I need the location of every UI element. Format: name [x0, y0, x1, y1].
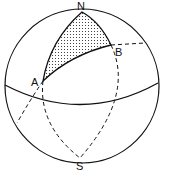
- label-south: S: [76, 160, 83, 170]
- great-circle-ab-lower: [17, 81, 43, 123]
- spherical-triangle-nab: [43, 12, 111, 81]
- equator: [5, 83, 158, 105]
- label-b: B: [115, 46, 122, 58]
- label-north: N: [77, 0, 85, 12]
- sphere-diagram: N S A B: [0, 0, 171, 170]
- label-a: A: [31, 76, 39, 88]
- great-circle-ab-back: [111, 43, 145, 45]
- meridian-b-s: [80, 45, 118, 158]
- meridian-a-s: [42, 81, 80, 158]
